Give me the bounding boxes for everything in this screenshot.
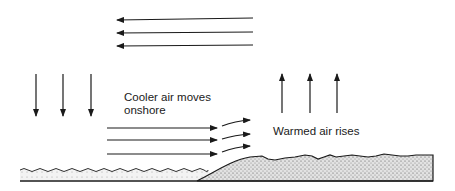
curved-rising-arrows [222, 120, 250, 152]
sinking-air-arrows [36, 74, 91, 116]
cooler-air-label-line2: onshore [124, 104, 211, 117]
arrow-curve-icon [222, 120, 250, 126]
onshore-flow-arrows [107, 128, 217, 154]
arrow-curve-icon [222, 134, 250, 139]
arrow-curve-icon [222, 146, 250, 152]
land-fill [197, 154, 433, 181]
diagram-canvas [0, 0, 455, 191]
sea-fill [20, 169, 215, 181]
cooler-air-label-line1: Cooler air moves [124, 91, 211, 104]
land-region [197, 154, 433, 181]
sea-region [20, 169, 215, 181]
arrow-left-icon [117, 18, 253, 20]
arrow-left-icon [117, 45, 253, 46]
warmed-air-label: Warmed air rises [273, 125, 359, 138]
arrow-left-icon [117, 32, 253, 33]
upper-return-flow-arrows [117, 18, 253, 46]
sea-breeze-diagram: Cooler air moves onshore Warmed air rise… [0, 0, 455, 191]
rising-air-arrows [282, 74, 337, 113]
cooler-air-label: Cooler air moves onshore [124, 91, 211, 117]
